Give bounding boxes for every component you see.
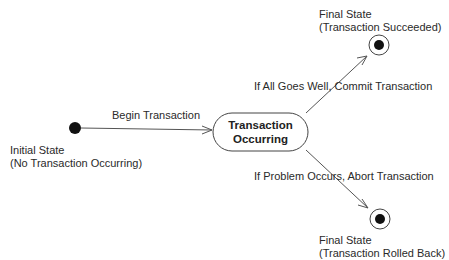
abort-transition-label: If Problem Occurs, Abort Transaction bbox=[254, 170, 434, 183]
state-label: Transaction Occurring bbox=[213, 113, 308, 151]
label-line: (No Transaction Occurring) bbox=[10, 157, 142, 170]
label-line: (Transaction Succeeded) bbox=[319, 21, 442, 34]
label-line: Final State bbox=[319, 234, 445, 247]
final-success-label: Final State (Transaction Succeeded) bbox=[319, 8, 442, 34]
label-line: Final State bbox=[319, 8, 442, 21]
commit-transition-label: If All Goes Well, Commit Transaction bbox=[254, 80, 432, 93]
state-label-line: Transaction bbox=[228, 118, 293, 132]
begin-transition-arrow bbox=[81, 128, 212, 130]
label-line: Initial State bbox=[10, 144, 142, 157]
final-rollback-label: Final State (Transaction Rolled Back) bbox=[319, 234, 445, 260]
final-state-core bbox=[375, 214, 385, 224]
state-label-line: Occurring bbox=[233, 132, 288, 146]
initial-state-node bbox=[69, 122, 81, 134]
final-state-core bbox=[374, 40, 384, 50]
begin-transition-label: Begin Transaction bbox=[112, 109, 200, 122]
initial-state-label: Initial State (No Transaction Occurring) bbox=[10, 144, 142, 170]
label-line: (Transaction Rolled Back) bbox=[319, 247, 445, 260]
